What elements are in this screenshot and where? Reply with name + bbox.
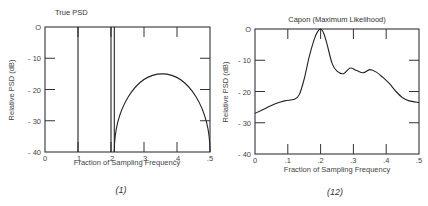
y-tick-label: - 30 xyxy=(28,117,41,126)
x-tick-label: .5 xyxy=(207,154,213,163)
capon-psd-chart: Capon (Maximum Likelihood) 0.1.2.3.4.5O-… xyxy=(221,15,422,197)
plot-area: 0.1.2.3.4.5O- 10- 20- 30- 40 xyxy=(28,23,213,163)
y-tick-label: - 20 xyxy=(238,88,251,97)
y-tick-label: O xyxy=(35,23,41,32)
chart-title: True PSD xyxy=(55,8,88,17)
y-axis-label: Relative PSD (dB) xyxy=(7,59,16,120)
x-tick-label: .2 xyxy=(317,156,323,165)
x-tick-label: .3 xyxy=(350,156,356,165)
x-tick-label: .5 xyxy=(416,156,422,165)
x-tick-label: .1 xyxy=(285,156,291,165)
x-tick-label: .4 xyxy=(383,156,389,165)
y-tick-label: - 40 xyxy=(28,148,41,157)
x-axis-label: Fraction of Sampling Frequency xyxy=(284,165,391,174)
y-tick-label: - 40 xyxy=(238,150,251,159)
psd-curve xyxy=(255,29,419,113)
x-axis-label: Fraction of Sampling Frequency xyxy=(74,158,181,167)
chart-title: Capon (Maximum Likelihood) xyxy=(288,15,386,24)
y-axis-label: Relative PSD (dB) xyxy=(221,61,230,122)
y-tick-label: - 10 xyxy=(238,56,251,65)
y-tick-label: - 20 xyxy=(28,86,41,95)
true-psd-chart: True PSD 0.1.2.3.4.5O- 10- 20- 30- 40 Fr… xyxy=(7,8,213,195)
figure-caption: (1) xyxy=(116,185,127,195)
y-tick-label: - 30 xyxy=(238,119,251,128)
plot-frame xyxy=(45,27,210,152)
plot-area: 0.1.2.3.4.5O- 10- 20- 30- 40 xyxy=(238,25,422,165)
psd-figure: True PSD 0.1.2.3.4.5O- 10- 20- 30- 40 Fr… xyxy=(0,0,428,206)
x-tick-label: 0 xyxy=(43,154,47,163)
x-tick-label: 0 xyxy=(253,156,257,165)
y-tick-label: O xyxy=(245,25,251,34)
broadband-curve xyxy=(114,74,210,152)
y-tick-label: - 10 xyxy=(28,54,41,63)
plot-frame xyxy=(255,29,419,154)
figure-caption: (12) xyxy=(327,187,343,197)
